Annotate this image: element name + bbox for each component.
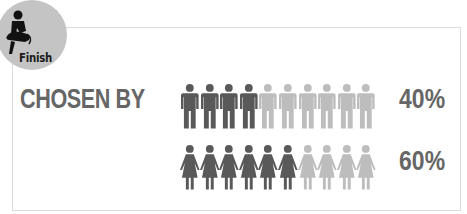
man-icon [219,83,239,135]
man-icon [200,83,220,135]
man-icon [278,83,298,135]
man-icon [239,83,259,135]
man-icon [337,83,357,135]
men-percent: 40% [399,84,445,115]
woman-icon [239,144,259,196]
woman-icon [200,144,220,196]
woman-icon [337,144,357,196]
woman-icon [356,144,376,196]
woman-icon [219,144,239,196]
finish-badge: Finish [0,0,67,70]
man-icon [317,83,337,135]
woman-icon [317,144,337,196]
man-icon [258,83,278,135]
chosen-by-title: CHOSEN BY [20,84,145,115]
woman-icon [278,144,298,196]
women-percent: 60% [399,146,445,177]
woman-icon [180,144,200,196]
woman-icon [298,144,318,196]
badge-label: Finish [19,51,52,65]
man-icon [356,83,376,135]
man-icon [298,83,318,135]
men-pictogram-row [180,83,376,135]
women-pictogram-row [180,144,376,196]
man-icon [180,83,200,135]
person-finish-icon [5,10,41,54]
woman-icon [258,144,278,196]
